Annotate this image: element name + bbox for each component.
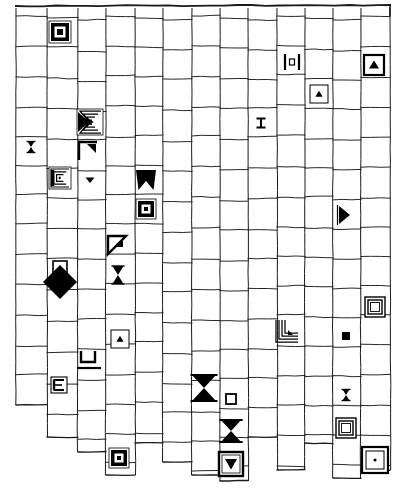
symbol-e-bracket <box>51 377 67 393</box>
glyph-triangle-down <box>86 178 95 184</box>
grid-row-rule <box>163 142 193 143</box>
grid-row-rule <box>163 50 193 51</box>
grid-row-rule <box>305 196 334 197</box>
symbol-filled-square-in-box <box>49 21 71 43</box>
grid-row-rule <box>135 106 164 107</box>
grid-column-rule <box>47 8 48 437</box>
grid-row-rule <box>305 346 334 347</box>
grid-column-bottom <box>220 480 249 481</box>
grid-column-rule <box>305 8 306 470</box>
grid-row-rule <box>163 20 193 21</box>
grid-column-rule <box>105 8 106 475</box>
grid-row-rule <box>135 135 164 136</box>
grid-row-rule <box>78 19 107 20</box>
grid-row-rule <box>305 317 334 318</box>
symbol-corner-wedge <box>108 236 126 254</box>
grid-column-rule <box>77 8 78 452</box>
grid-row-rule <box>135 313 164 314</box>
grid-row-rule <box>16 254 48 255</box>
grid-row-rule <box>277 404 306 405</box>
grid-column-rule <box>191 8 192 475</box>
grid-row-rule <box>16 77 48 78</box>
grid-row-rule <box>333 51 362 52</box>
grid-row-rule <box>361 16 391 17</box>
grid-row-rule <box>333 347 362 348</box>
grid-row-rule <box>361 374 391 375</box>
glyph-bracket-wedge <box>87 144 96 153</box>
symbol-tiny-outline-square <box>226 394 236 404</box>
glyph-c-spine <box>51 170 54 186</box>
glyph-outline-square <box>226 394 236 404</box>
grid-row-rule <box>163 322 193 323</box>
grid-row-rule <box>192 320 221 321</box>
grid-row-rule <box>305 406 334 407</box>
grid-row-rule <box>333 109 362 110</box>
symbol-small-triangle-in-box <box>111 330 129 348</box>
symbol-bracketed-square <box>285 54 299 70</box>
grid-top-border <box>15 5 391 6</box>
grid-row-rule <box>16 46 48 47</box>
grid-column-bottom <box>277 470 306 471</box>
glyph-core-square <box>117 456 121 460</box>
grid-row-rule <box>220 321 249 322</box>
grid-column-bottom <box>78 452 107 453</box>
grid-row-rule <box>47 139 79 140</box>
grid-row-rule <box>361 167 391 168</box>
glyph-bowtie <box>192 375 216 401</box>
grid-row-rule <box>277 45 306 46</box>
grid-row-rule <box>163 232 193 233</box>
grid-row-rule <box>135 165 164 166</box>
symbol-double-square-right <box>336 418 356 438</box>
grid-row-rule <box>135 47 164 48</box>
grid-row-rule <box>192 166 221 167</box>
grid-row-rule <box>220 201 249 202</box>
glyph-crown <box>136 170 156 190</box>
grid-row-rule <box>192 227 221 228</box>
grid-row-rule <box>333 288 362 289</box>
symbol-hourglass-right <box>342 390 351 401</box>
symbol-nested-sigma-triangle <box>77 109 103 135</box>
grid-row-rule <box>106 105 136 106</box>
symbol-u-bracket <box>77 351 101 368</box>
glyph-core-square <box>57 29 63 35</box>
grid-row-rule <box>163 384 193 385</box>
grid-row-rule <box>248 50 278 51</box>
grid-row-rule <box>220 18 249 19</box>
grid-row-rule <box>106 404 136 405</box>
grid-row-rule <box>333 405 362 406</box>
grid-row-rule <box>277 197 306 198</box>
symbol-filled-square-in-box-2 <box>136 199 156 219</box>
grid-row-rule <box>106 16 136 17</box>
grid-row-rule <box>361 198 391 199</box>
grid-row-rule <box>333 19 362 20</box>
symbol-corner-bracket-upper-left <box>79 142 97 160</box>
grid-row-rule <box>192 135 221 136</box>
grid-row-rule <box>305 78 334 79</box>
symbol-down-triangle-in-box <box>219 452 243 476</box>
grid-artwork <box>0 0 402 488</box>
grid-row-rule <box>333 376 362 377</box>
grid-row-rule <box>78 349 107 350</box>
grid-row-rule <box>361 227 391 228</box>
grid-row-rule <box>47 258 79 259</box>
grid-row-rule <box>248 20 278 21</box>
symbol-bowtie-mid <box>219 420 242 442</box>
grid-row-rule <box>305 168 334 169</box>
grid-row-rule <box>135 341 164 342</box>
symbol-small-down-triangle <box>86 178 95 184</box>
grid-row-rule <box>333 229 362 230</box>
grid-row-rule <box>361 435 391 436</box>
grid-row-rule <box>220 108 249 109</box>
grid-row-rule <box>248 377 278 378</box>
grid-row-rule <box>47 17 79 18</box>
glyph-c-stroke <box>59 177 60 178</box>
grid-row-rule <box>16 284 48 285</box>
glyph-center-dot <box>373 458 376 461</box>
grid-row-rule <box>106 75 136 76</box>
grid-row-rule <box>277 346 306 347</box>
grid-row-rule <box>248 288 278 289</box>
grid-column-bottom <box>305 443 334 444</box>
grid-row-rule <box>248 198 278 199</box>
grid-row-rule <box>277 285 306 286</box>
glyph-hourglass <box>343 390 350 401</box>
